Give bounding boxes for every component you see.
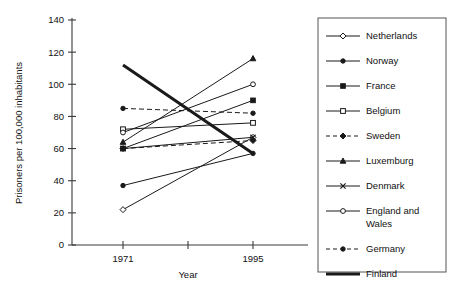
y-tick-label: 60: [53, 143, 64, 154]
y-tick-label: 20: [53, 207, 64, 218]
marker-open-circle: [251, 82, 256, 87]
marker-filled-circle: [341, 247, 345, 251]
y-tick-label: 120: [48, 47, 64, 58]
legend-label: Sweden: [366, 130, 400, 141]
series-sweden: [120, 138, 256, 152]
axes-group: 02040608010012014019711995YearPrisoners …: [13, 14, 308, 280]
series-netherlands: [120, 134, 256, 212]
legend-label: England and: [366, 205, 419, 216]
x-tick-label: 1971: [112, 253, 133, 264]
series-line: [123, 59, 253, 143]
y-tick-label: 80: [53, 111, 64, 122]
marker-filled-circle: [251, 111, 255, 115]
legend-label: Luxemburg: [366, 155, 414, 166]
marker-open-diamond: [120, 207, 126, 213]
marker-open-circle: [121, 130, 126, 135]
marker-filled-circle: [121, 183, 125, 187]
marker-filled-triangle: [120, 139, 126, 144]
y-tick-label: 100: [48, 79, 64, 90]
legend: NetherlandsNorwayFranceBelgiumSwedenLuxe…: [318, 18, 446, 279]
x-tick-label: 1995: [242, 253, 263, 264]
legend-label: Belgium: [366, 105, 400, 116]
marker-filled-circle: [121, 106, 125, 110]
y-tick-label: 40: [53, 175, 64, 186]
marker-filled-circle: [341, 59, 345, 63]
y-axis-title: Prisoners per 100,000 inhabitants: [13, 62, 24, 204]
legend-label-cont: Wales: [366, 218, 392, 229]
marker-filled-square: [341, 84, 346, 89]
legend-label: France: [366, 80, 396, 91]
series-group: [120, 56, 256, 213]
legend-label: Netherlands: [366, 30, 417, 41]
series-line: [123, 153, 253, 185]
prisoners-per-100000-line-chart: 02040608010012014019711995YearPrisoners …: [0, 0, 454, 296]
marker-open-square: [341, 109, 346, 114]
chart-canvas: 02040608010012014019711995YearPrisoners …: [0, 0, 454, 296]
series-line: [123, 137, 253, 209]
series-norway: [121, 151, 255, 188]
series-luxemburg: [120, 56, 256, 145]
marker-open-square: [251, 120, 256, 125]
y-tick-label: 140: [48, 14, 64, 25]
legend-label: Denmark: [366, 180, 405, 191]
series-line: [123, 123, 253, 129]
marker-open-circle: [341, 209, 346, 214]
x-axis-title: Year: [178, 269, 197, 280]
legend-label: Norway: [366, 55, 398, 66]
legend-label: Germany: [366, 243, 405, 254]
y-tick-label: 0: [59, 239, 64, 250]
legend-label: Finland: [366, 268, 397, 279]
marker-filled-square: [251, 98, 256, 103]
marker-filled-triangle: [250, 56, 256, 61]
